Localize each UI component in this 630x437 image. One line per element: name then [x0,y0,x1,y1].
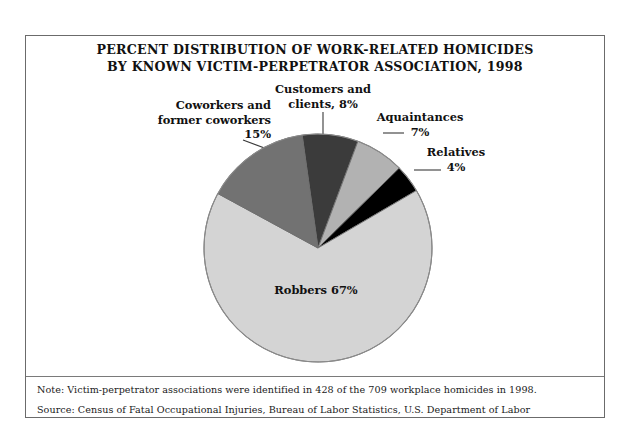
pie-svg [203,133,433,363]
chart-title-line-1: PERCENT DISTRIBUTION OF WORK-RELATED HOM… [25,42,605,59]
slice-label-relatives-value: 4% [414,160,498,175]
slice-label-coworkers-line-1: Coworkers and [143,98,271,113]
slice-label-acquaintances-value: 7% [372,125,468,140]
slice-label-robbers-text: Robbers 67% [246,283,386,298]
slice-label-relatives: Relatives 4% [414,145,498,174]
slice-label-acquaintances: Aquaintances 7% [372,110,468,139]
slice-label-acquaintances-line-1: Aquaintances [372,110,468,125]
slice-label-relatives-line-1: Relatives [414,145,498,160]
slice-label-robbers: Robbers 67% [246,283,386,298]
chart-title: PERCENT DISTRIBUTION OF WORK-RELATED HOM… [25,42,605,75]
slice-label-customers-line-1: Customers and [268,82,378,97]
figure-stage: PERCENT DISTRIBUTION OF WORK-RELATED HOM… [0,0,630,437]
chart-title-line-2: BY KNOWN VICTIM-PERPETRATOR ASSOCIATION,… [25,59,605,76]
slice-label-customers-line-2: clients, 8% [268,97,378,112]
slice-label-coworkers-value: 15% [143,127,271,142]
chart-source: Source: Census of Fatal Occupational Inj… [37,404,530,415]
footer-divider [26,376,604,377]
slice-label-coworkers: Coworkers and former coworkers 15% [143,98,271,142]
slice-label-coworkers-line-2: former coworkers [143,113,271,128]
pie-chart [203,133,433,363]
chart-note: Note: Victim-perpetrator associations we… [37,384,537,395]
slice-label-customers: Customers and clients, 8% [268,82,378,111]
